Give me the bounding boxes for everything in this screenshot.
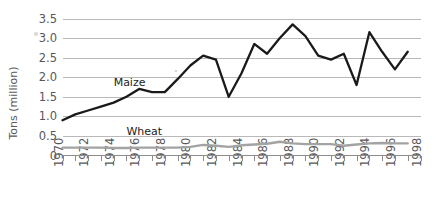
x-tick-label: 1978 — [154, 138, 168, 167]
x-tick-label: 1986 — [256, 138, 270, 167]
x-tick-label: 1972 — [77, 138, 91, 167]
x-tick-label: 1992 — [333, 138, 347, 167]
y-tick-label: 2.0 — [39, 70, 57, 84]
scan-speck-icon — [175, 70, 178, 73]
y-tick-label: 1.0 — [39, 109, 57, 123]
series-label-wheat: Wheat — [126, 125, 162, 138]
y-tick-label: 3.0 — [39, 31, 57, 45]
chart-canvas: 3.53.02.52.01.51.00.50 19701972197419761… — [0, 0, 440, 210]
x-tick-label: 1970 — [52, 138, 66, 167]
x-tick-label: 1994 — [358, 138, 372, 167]
x-axis-tick-labels: 1970197219741976197819801982198419861988… — [52, 138, 424, 167]
y-axis-title: Tons (million) — [7, 66, 20, 140]
x-tick-label: 1980 — [179, 138, 193, 167]
x-tick-label: 1984 — [231, 138, 245, 167]
line-chart: 3.53.02.52.01.51.00.50 19701972197419761… — [0, 0, 440, 210]
series-label-maize: Maize — [114, 76, 146, 89]
y-tick-label: 2.5 — [39, 51, 57, 65]
x-tick-label: 1982 — [205, 138, 219, 167]
scan-speck-icon — [34, 32, 38, 36]
x-tick-label: 1990 — [307, 138, 321, 167]
x-tick-label: 1998 — [410, 138, 424, 167]
x-tick-label: 1974 — [103, 138, 117, 167]
y-tick-label: 1.5 — [39, 90, 57, 104]
x-tick-label: 1976 — [128, 138, 142, 167]
y-tick-label: 3.5 — [39, 12, 57, 26]
